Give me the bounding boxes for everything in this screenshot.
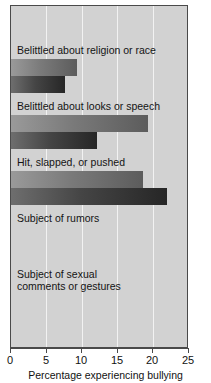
bar-group-subject-of-rumors: Subject of rumors xyxy=(11,212,187,267)
bar-group-religion-or-race: Belittled about religion or race xyxy=(11,44,187,99)
x-axis-tick-label: 10 xyxy=(75,354,87,366)
x-axis-title: Percentage experiencing bullying xyxy=(0,369,211,381)
bar-males xyxy=(11,115,148,132)
x-axis-tick xyxy=(117,348,118,353)
x-axis-tick-label: 20 xyxy=(146,354,158,366)
x-axis-line xyxy=(10,348,188,349)
bar-group-label: Belittled about looks or speech xyxy=(17,100,160,112)
x-axis-tick-label: 25 xyxy=(182,354,194,366)
x-axis-tick xyxy=(188,348,189,353)
x-axis-tick xyxy=(152,348,153,353)
bar-group-looks-or-speech: Belittled about looks or speech xyxy=(11,100,187,155)
bar-females xyxy=(11,188,167,205)
bar-females xyxy=(11,76,65,93)
bar-males xyxy=(11,171,143,188)
bar-group-sexual-comments-or-gestures: Subject of sexual comments or gestures xyxy=(11,268,187,335)
x-axis-tick-label: 15 xyxy=(111,354,123,366)
bar-group-hit-slapped-pushed: Hit, slapped, or pushed xyxy=(11,156,187,211)
plot-area: Belittled about religion or race Belittl… xyxy=(10,5,188,348)
x-axis-tick-label: 0 xyxy=(7,354,13,366)
x-axis-tick xyxy=(81,348,82,353)
bar-group-label: Belittled about religion or race xyxy=(17,44,156,56)
x-axis-tick-label: 5 xyxy=(43,354,49,366)
x-axis-tick xyxy=(10,348,11,353)
bar-group-label: Hit, slapped, or pushed xyxy=(17,156,125,168)
bar-group-label: Subject of sexual comments or gestures xyxy=(17,268,121,292)
x-axis-tick xyxy=(46,348,47,353)
bar-males xyxy=(11,59,77,76)
bullying-bar-chart: Males Females Belittled about religion o… xyxy=(0,0,211,383)
bar-group-label: Subject of rumors xyxy=(17,212,99,224)
bar-females xyxy=(11,132,97,149)
